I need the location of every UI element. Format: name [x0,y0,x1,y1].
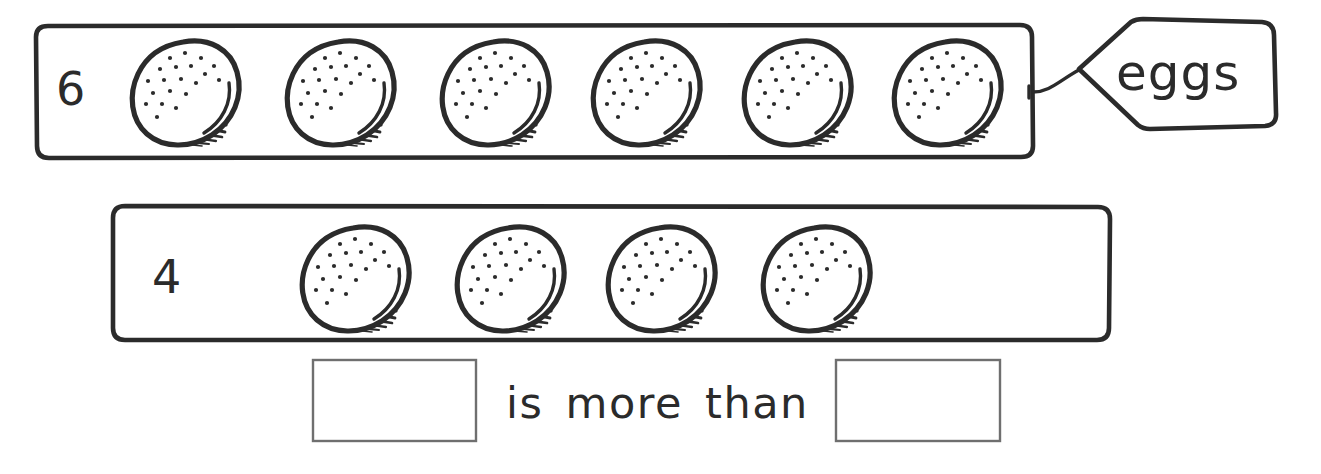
tag-connector [1029,70,1079,98]
right-answer-box[interactable] [836,360,1000,441]
row-top-eggs [132,41,1001,146]
worksheet-drawing [0,0,1321,474]
tag-icon [1079,19,1276,129]
row-bottom-eggs [302,227,870,332]
worksheet-canvas: 6 4 eggs is more than [0,0,1321,474]
left-answer-box[interactable] [313,360,476,441]
